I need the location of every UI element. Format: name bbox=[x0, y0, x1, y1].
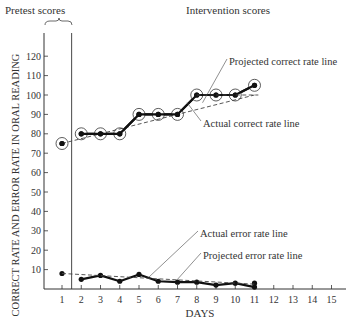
annotation-leader bbox=[178, 253, 202, 279]
y-tick-label: 60 bbox=[31, 167, 41, 178]
x-tick-label: 11 bbox=[250, 294, 260, 305]
y-tick-label: 100 bbox=[26, 90, 41, 101]
data-point bbox=[136, 112, 141, 117]
x-tick-label: 14 bbox=[307, 294, 317, 305]
x-tick-label: 7 bbox=[175, 294, 180, 305]
annotation-label: Actual correct rate line bbox=[203, 118, 300, 129]
x-tick-label: 13 bbox=[288, 294, 298, 305]
x-tick-label: 1 bbox=[60, 294, 65, 305]
data-point bbox=[156, 279, 161, 284]
y-tick-label: 50 bbox=[31, 187, 41, 198]
data-point bbox=[59, 141, 64, 146]
data-point bbox=[156, 112, 161, 117]
data-point bbox=[252, 281, 257, 286]
annotation-label: Projected error rate line bbox=[203, 250, 303, 261]
x-tick-label: 3 bbox=[98, 294, 103, 305]
annotations: Projected correct rate lineActual correc… bbox=[149, 56, 338, 279]
y-tick-label: 90 bbox=[31, 109, 41, 120]
y-tick-label: 120 bbox=[26, 51, 41, 62]
data-point bbox=[175, 112, 180, 117]
annotation-label: Actual error rate line bbox=[200, 228, 288, 239]
y-axis-label: CORRECT RATE AND ERROR RATE IN ORAL READ… bbox=[10, 53, 21, 316]
y-tick-label: 40 bbox=[31, 206, 41, 217]
x-tick-label: 15 bbox=[327, 294, 337, 305]
data-point bbox=[98, 131, 103, 136]
axis-ticks: 1020304050607080901001101201234567891011… bbox=[26, 51, 337, 305]
x-tick-label: 2 bbox=[79, 294, 84, 305]
x-tick-label: 12 bbox=[269, 294, 279, 305]
x-tick-label: 6 bbox=[156, 294, 161, 305]
pretest-scores-label: Pretest scores bbox=[5, 4, 65, 16]
y-tick-label: 10 bbox=[31, 264, 41, 275]
y-tick-label: 70 bbox=[31, 148, 41, 159]
data-point bbox=[252, 83, 257, 88]
data-point bbox=[117, 131, 122, 136]
y-tick-label: 110 bbox=[26, 70, 41, 81]
pretest-brace-icon bbox=[45, 18, 72, 25]
intervention-scores-label: Intervention scores bbox=[186, 4, 270, 16]
data-point bbox=[194, 280, 199, 285]
y-tick-label: 20 bbox=[31, 245, 41, 256]
annotation-leader bbox=[149, 231, 198, 277]
data-point bbox=[136, 272, 141, 277]
y-tick-label: 30 bbox=[31, 225, 41, 236]
line-chart: 1020304050607080901001101201234567891011… bbox=[0, 0, 362, 323]
x-tick-label: 10 bbox=[230, 294, 240, 305]
x-axis-label: DAYS bbox=[186, 307, 215, 319]
annotation-label: Projected correct rate line bbox=[229, 56, 337, 67]
actual-line bbox=[81, 274, 254, 287]
x-tick-label: 9 bbox=[214, 294, 219, 305]
data-point bbox=[79, 131, 84, 136]
data-point bbox=[117, 279, 122, 284]
data-point bbox=[79, 277, 84, 282]
y-tick-label: 80 bbox=[31, 128, 41, 139]
x-tick-label: 8 bbox=[194, 294, 199, 305]
x-tick-label: 4 bbox=[117, 294, 122, 305]
x-tick-label: 5 bbox=[137, 294, 142, 305]
data-point bbox=[213, 283, 218, 288]
